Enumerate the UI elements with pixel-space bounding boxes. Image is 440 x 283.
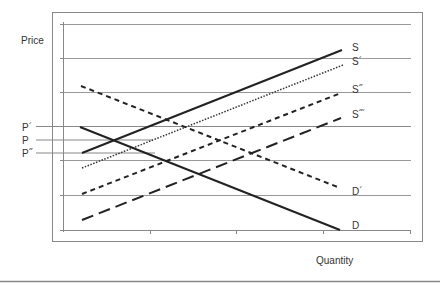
x-axis-label: Quantity: [316, 255, 353, 266]
curve-s: [82, 50, 342, 153]
label-d: D: [352, 220, 359, 231]
label-s: S: [352, 42, 359, 53]
y-axis-label: Price: [21, 35, 44, 46]
label-s-prime: S´: [352, 56, 362, 67]
label-p-double: P˝: [22, 148, 33, 159]
supply-demand-chart: Price P´ P P˝ S S´ S˝ S˝´ D´ D Quantity: [0, 0, 440, 283]
label-d-prime: D´: [352, 186, 363, 197]
label-p: P: [22, 135, 29, 146]
curve-s-triple: [82, 118, 341, 220]
label-s-triple: S˝´: [352, 109, 365, 120]
label-p-prime: P´: [22, 122, 32, 133]
label-s-double: S˝: [352, 84, 363, 95]
curve-s-prime: [82, 65, 343, 168]
